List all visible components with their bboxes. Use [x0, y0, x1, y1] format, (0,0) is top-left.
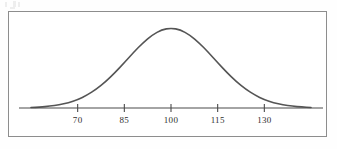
x-axis-tick-label-130: 130	[257, 115, 272, 125]
bell-curve-plot: 7085100115130	[9, 12, 326, 136]
x-axis-tick-label-100: 100	[164, 115, 179, 125]
figure-root: 7085100115130	[0, 0, 337, 149]
curve-group	[31, 28, 311, 107]
normal-distribution-curve	[31, 28, 311, 107]
x-axis-tick-label-115: 115	[211, 115, 225, 125]
x-axis-tick-labels: 7085100115130	[73, 115, 272, 125]
scan-artifact-speckle	[4, 1, 26, 10]
chart-frame: 7085100115130	[8, 11, 327, 137]
x-axis-tick-label-85: 85	[120, 115, 130, 125]
x-axis-group: 7085100115130	[19, 104, 323, 125]
x-axis-tick-label-70: 70	[73, 115, 83, 125]
